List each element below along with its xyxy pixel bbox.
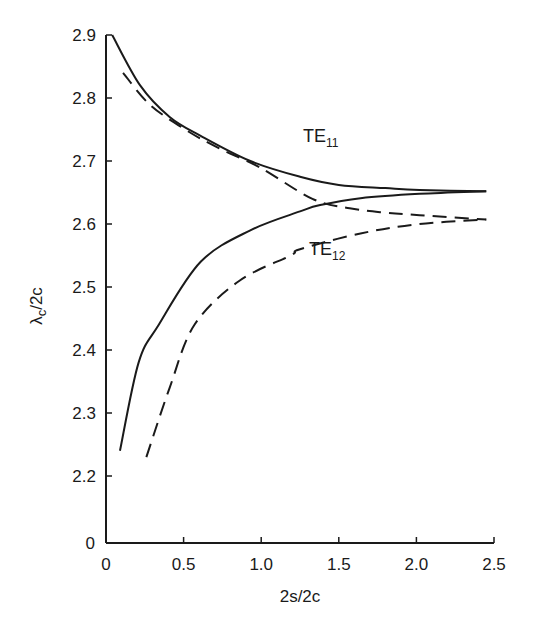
y-tick-label: 2.7 [72, 152, 96, 171]
y-axis-title: λc/2c [27, 287, 49, 325]
te11-label: TE11 [303, 126, 339, 150]
y-tick-label: 2.5 [72, 278, 96, 297]
y-tick-label: 2.2 [72, 467, 96, 486]
x-tick-label: 2.0 [405, 555, 429, 574]
y-tick-label: 2.8 [72, 89, 96, 108]
axes: 00.51.01.52.02.502.22.32.42.52.62.72.82.… [72, 26, 505, 574]
y-tick-label: 2.4 [72, 341, 96, 360]
y-tick-label: 0 [86, 534, 95, 553]
series-line-1 [123, 73, 486, 220]
y-tick-label: 2.6 [72, 215, 96, 234]
x-tick-label: 2.5 [482, 555, 506, 574]
x-tick-label: 1.0 [249, 555, 273, 574]
y-tick-label: 2.3 [72, 404, 96, 423]
annotations: TE11 TE12 [303, 126, 346, 263]
x-axis-title: 2s/2c [280, 587, 321, 606]
te12-label: TE12 [309, 239, 346, 263]
series-line-2 [120, 191, 486, 451]
x-tick-label: 0.5 [172, 555, 196, 574]
chart: 00.51.01.52.02.502.22.32.42.52.62.72.82.… [0, 0, 533, 626]
curves [112, 35, 486, 457]
x-tick-label: 0 [101, 555, 110, 574]
y-tick-label: 2.9 [72, 26, 96, 45]
series-line-0 [112, 35, 486, 191]
x-tick-label: 1.5 [327, 555, 351, 574]
